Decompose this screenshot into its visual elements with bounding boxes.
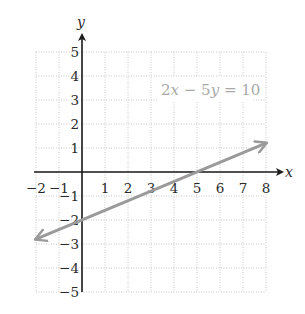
y-tick-label: 2 [70, 116, 79, 132]
equation-operator: − 5 [179, 81, 211, 99]
x-tick-label: 5 [193, 180, 202, 196]
x-tick-label: 6 [216, 180, 225, 196]
x-tick-label: 2 [124, 180, 133, 196]
y-tick-label: −4 [59, 260, 79, 276]
y-tick-label: −1 [59, 188, 79, 204]
y-tick-label: 3 [70, 92, 79, 108]
y-tick-label: −3 [59, 236, 79, 252]
x-axis-label: x [285, 164, 293, 180]
x-tick-label: 8 [262, 180, 271, 196]
y-axis-label: y [76, 14, 86, 30]
x-tick-label: 1 [101, 180, 110, 196]
x-tick-label: −2 [26, 180, 46, 196]
coordinate-graph: −2−11234567854321−1−2−3−4−5 2x − 5y = 10… [0, 0, 305, 314]
equation-label: 2x − 5y = 10 [161, 81, 260, 99]
y-tick-label: −5 [59, 284, 79, 300]
y-tick-label: 1 [70, 140, 79, 156]
equation-coefficient: 2 [161, 81, 171, 99]
y-tick-label: 5 [70, 44, 79, 60]
y-tick-label: 4 [70, 68, 79, 84]
equation-rhs: = 10 [219, 81, 260, 99]
x-tick-label: 7 [239, 180, 248, 196]
